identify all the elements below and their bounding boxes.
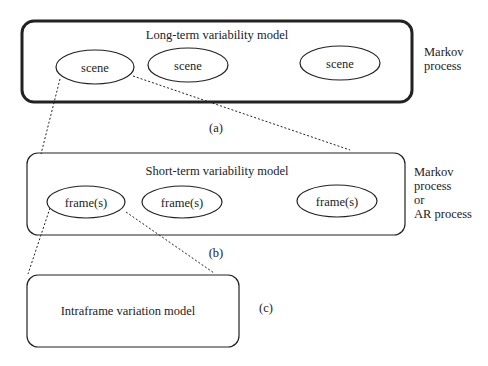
short-term-model-title: Short-term variability model — [145, 164, 288, 178]
caption-c: (c) — [259, 301, 273, 315]
process-label-b-line4: AR process — [414, 207, 472, 221]
caption-b: (b) — [209, 246, 224, 260]
zoom-line-a-left — [41, 79, 60, 154]
process-label-b-line2: process — [414, 179, 452, 193]
frame-label-2: frame(s) — [161, 196, 203, 210]
process-label-b-line3: or — [414, 193, 424, 207]
intraframe-model-title: Intraframe variation model — [61, 304, 196, 318]
frame-label-3: frame(s) — [316, 195, 358, 209]
frame-label-1: frame(s) — [65, 196, 107, 210]
zoom-line-b-right — [126, 212, 214, 273]
caption-a: (a) — [209, 121, 223, 135]
zoom-line-b-left — [28, 208, 50, 274]
zoom-line-a-right — [133, 76, 350, 150]
markov-process-label-a-line1: Markov — [424, 45, 464, 59]
markov-process-label-a-line2: process — [424, 59, 462, 73]
scene-label-2: scene — [174, 59, 202, 73]
long-term-model-title: Long-term variability model — [146, 28, 288, 42]
scene-label-1: scene — [81, 61, 109, 75]
process-label-b-line1: Markov — [414, 165, 454, 179]
scene-label-3: scene — [326, 57, 354, 71]
